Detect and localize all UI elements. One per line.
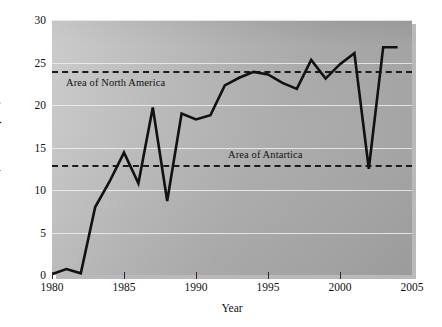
plot-area: Area of North AmericaArea of Antartica (52, 20, 412, 275)
x-tick-label-2005: 2005 (401, 281, 424, 293)
y-tick-label-10: 10 (16, 184, 46, 196)
x-tick-mark-1995 (268, 272, 269, 279)
x-tick-label-1980: 1980 (41, 281, 64, 293)
y-tick-label-30: 30 (16, 14, 46, 26)
plot-inner: Area of North AmericaArea of Antartica (52, 20, 412, 275)
x-tick-label-1995: 1995 (257, 281, 280, 293)
x-tick-label-1985: 1985 (113, 281, 136, 293)
x-tick-label-2000: 2000 (329, 281, 352, 293)
x-tick-mark-2000 (340, 272, 341, 279)
y-tick-label-15: 15 (16, 142, 46, 154)
x-tick-label-1990: 1990 (185, 281, 208, 293)
y-tick-label-20: 20 (16, 99, 46, 111)
x-tick-mark-1990 (196, 272, 197, 279)
y-tick-label-25: 25 (16, 57, 46, 69)
y-tick-label-5: 5 (16, 227, 46, 239)
series-path (52, 47, 398, 274)
x-tick-mark-1985 (124, 272, 125, 279)
x-axis-label: Year (221, 302, 242, 314)
x-tick-mark-1980 (52, 272, 53, 279)
y-tick-label-0: 0 (16, 269, 46, 281)
series-line-ozone-hole-area (52, 20, 412, 275)
chart-figure: Area of North AmericaArea of Antartica 0… (0, 0, 442, 327)
